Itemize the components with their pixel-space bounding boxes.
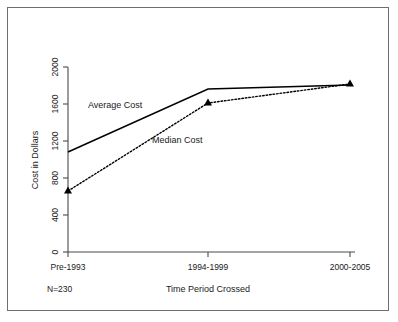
x-axis-title: Time Period Crossed — [166, 284, 250, 294]
median-marker-pre-1993 — [64, 187, 72, 194]
x-tick-label-1994-1999: 1994-1999 — [188, 262, 229, 272]
average-cost-line — [68, 85, 350, 152]
y-tick-label-1200: 1200 — [50, 131, 60, 150]
line-chart: 0 400 800 1200 1600 2000 Cost in Dollars… — [0, 0, 398, 322]
median-cost-label: Median Cost — [152, 135, 203, 145]
x-axis: Pre-1993 1994-1999 2000-2005 Time Period… — [51, 252, 371, 294]
y-axis: 0 400 800 1200 1600 2000 Cost in Dollars — [30, 57, 68, 254]
series-median-cost — [64, 80, 354, 194]
sample-size-note: N=230 — [47, 284, 73, 294]
median-marker-2000-2005 — [346, 80, 354, 87]
average-cost-label: Average Cost — [88, 100, 143, 110]
series-average-cost — [68, 85, 350, 152]
x-tick-label-2000-2005: 2000-2005 — [330, 262, 371, 272]
chart-page: 0 400 800 1200 1600 2000 Cost in Dollars… — [0, 0, 398, 322]
y-tick-label-400: 400 — [50, 208, 60, 222]
y-tick-label-2000: 2000 — [50, 57, 60, 76]
x-tick-label-pre-1993: Pre-1993 — [51, 262, 86, 272]
y-axis-title: Cost in Dollars — [30, 130, 40, 189]
y-tick-label-0: 0 — [50, 249, 60, 254]
y-tick-label-800: 800 — [50, 171, 60, 185]
y-tick-label-1600: 1600 — [50, 94, 60, 113]
